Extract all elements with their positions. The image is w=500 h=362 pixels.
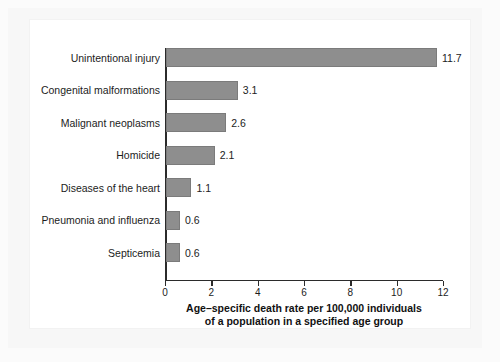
plot-area: 024681012 Unintentional injury11.7Congen… bbox=[30, 20, 470, 328]
bar-value-label: 0.6 bbox=[185, 247, 200, 259]
category-label: Homicide bbox=[116, 149, 165, 161]
bar-row: Diseases of the heart1.1 bbox=[30, 178, 470, 197]
x-axis-tick-label: 10 bbox=[391, 287, 402, 298]
bar[interactable] bbox=[166, 81, 238, 100]
bar-row: Malignant neoplasms2.6 bbox=[30, 113, 470, 132]
x-axis-tick bbox=[258, 281, 259, 286]
bar[interactable] bbox=[166, 211, 180, 230]
x-axis-tick-label: 0 bbox=[162, 287, 168, 298]
x-axis-tick bbox=[350, 281, 351, 286]
x-axis-tick bbox=[397, 281, 398, 286]
bar-row: Unintentional injury11.7 bbox=[30, 48, 470, 67]
bar-row: Septicemia0.6 bbox=[30, 243, 470, 262]
category-label: Unintentional injury bbox=[71, 52, 165, 64]
x-axis-tick bbox=[165, 281, 166, 286]
bar[interactable] bbox=[166, 113, 226, 132]
chart-panel: 024681012 Unintentional injury11.7Congen… bbox=[30, 20, 470, 328]
bar[interactable] bbox=[166, 243, 180, 262]
x-axis-title: Age–specific death rate per 100,000 indi… bbox=[165, 302, 443, 328]
bar-value-label: 2.6 bbox=[231, 117, 246, 129]
category-label: Pneumonia and influenza bbox=[41, 214, 165, 226]
bar-value-label: 0.6 bbox=[185, 214, 200, 226]
x-axis-tick-label: 6 bbox=[301, 287, 307, 298]
x-axis-title-line2: of a population in a specified age group bbox=[165, 315, 443, 328]
x-axis-tick-label: 4 bbox=[255, 287, 261, 298]
bar-value-label: 3.1 bbox=[243, 84, 258, 96]
bar-value-label: 2.1 bbox=[220, 149, 235, 161]
category-label: Congenital malformations bbox=[41, 84, 165, 96]
figure-container: 024681012 Unintentional injury11.7Congen… bbox=[0, 0, 500, 362]
bar[interactable] bbox=[166, 178, 191, 197]
category-label: Diseases of the heart bbox=[61, 182, 165, 194]
bar[interactable] bbox=[166, 48, 437, 67]
x-axis-title-line1: Age–specific death rate per 100,000 indi… bbox=[165, 302, 443, 315]
x-axis-tick-label: 2 bbox=[209, 287, 215, 298]
x-axis-tick-label: 12 bbox=[437, 287, 448, 298]
x-axis-tick bbox=[211, 281, 212, 286]
bar-row: Homicide2.1 bbox=[30, 146, 470, 165]
category-label: Malignant neoplasms bbox=[61, 117, 165, 129]
x-axis-tick-label: 8 bbox=[348, 287, 354, 298]
bar[interactable] bbox=[166, 146, 215, 165]
bar-value-label: 1.1 bbox=[196, 182, 211, 194]
category-label: Septicemia bbox=[108, 247, 165, 259]
bar-row: Pneumonia and influenza0.6 bbox=[30, 211, 470, 230]
bar-value-label: 11.7 bbox=[442, 52, 462, 64]
bar-row: Congenital malformations3.1 bbox=[30, 81, 470, 100]
x-axis-tick bbox=[304, 281, 305, 286]
x-axis-tick bbox=[443, 281, 444, 286]
